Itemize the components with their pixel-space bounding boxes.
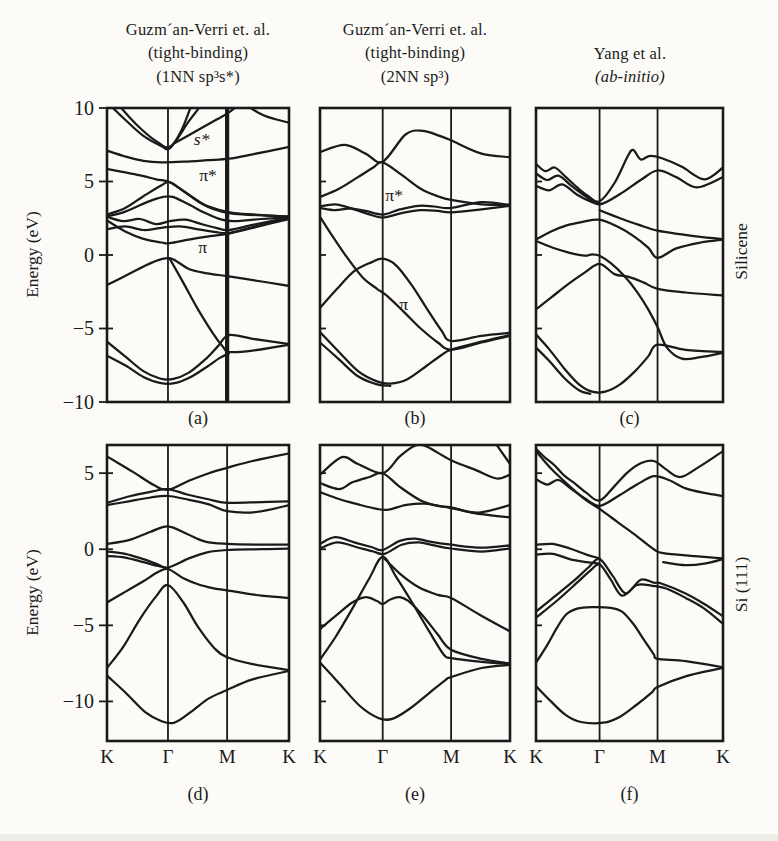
band-curve [320,445,510,479]
band-annotation-a: s* [194,129,210,149]
y-tick-label: −5 [73,614,94,636]
x-tick-label-k: K [716,746,730,767]
band-curve [107,258,289,286]
panel-caption-d: (d) [188,784,209,805]
band-curve [320,206,510,218]
y-tick-label: −10 [63,690,94,712]
band-curve [320,597,510,663]
band-curve [536,334,723,392]
panel-frame [320,108,510,402]
band-curve [663,559,723,565]
band-lines-f [536,449,723,723]
band-curve [320,130,510,162]
band-annotation-b: π* [385,185,403,205]
y-tick-label: −5 [73,317,94,339]
band-annotation-b: π [399,294,408,314]
band-curve [536,668,723,723]
panel-d: 50−5−10KΓMK(d) [63,445,296,805]
panel-e: KΓMK(e) [313,445,517,805]
band-curve [107,569,289,603]
band-curve [320,162,510,205]
band-annotation-a: π [198,237,207,257]
panel-caption-a: (a) [188,408,208,429]
panel-caption-f: (f) [621,784,639,805]
band-curve [600,210,723,239]
band-lines-e [320,445,510,720]
band-curve [536,241,723,359]
band-curve [107,453,289,490]
y-tick-label: 10 [74,97,94,119]
band-curve [107,549,289,568]
band-curve [536,544,600,559]
x-tick-label-k: K [313,746,327,767]
panel-caption-b: (b) [405,408,426,429]
band-lines-d [107,453,289,723]
band-curve [107,526,289,544]
band-curve [536,264,723,310]
panel-a: 1050−5−10(a)s*π*π [63,97,289,430]
panel-caption-c: (c) [620,408,640,429]
band-curve [107,147,289,162]
y-tick-label: 0 [84,244,94,266]
x-tick-label-k: K [529,746,543,767]
panel-b: (b)π*π [320,108,510,429]
band-lines-c [536,150,723,394]
y-tick-label: 0 [84,538,94,560]
band-curve [320,473,510,513]
y-tick-label: 5 [84,170,94,192]
scan-shadow-strip [0,834,778,841]
band-curve [536,607,723,667]
band-structure-figure: 1050−5−10(a)s*π*π(b)π*π(c)50−5−10KΓMK(d)… [0,0,778,841]
band-curve [242,102,289,123]
figure-page: Guzm´an-Verri et. al. (tight-binding) (1… [0,0,778,841]
band-annotation-a: π* [199,165,217,185]
band-curve [107,182,289,217]
panel-frame [320,445,510,741]
x-tick-label-γ: Γ [162,746,173,767]
band-curve [536,449,723,501]
y-tick-label: −10 [63,391,94,413]
x-tick-label-m: M [443,746,460,767]
panel-frame [107,445,289,741]
band-curve [107,671,289,723]
band-curve [536,564,723,624]
band-curve [170,259,289,352]
band-curve [320,663,510,720]
x-tick-label-γ: Γ [377,746,388,767]
band-curve [320,259,510,341]
panel-caption-e: (e) [405,784,425,805]
x-tick-label-m: M [219,746,236,767]
y-tick-label: 5 [84,462,94,484]
band-curve [536,150,723,202]
x-tick-label-k: K [282,746,296,767]
band-curve [383,557,510,632]
band-curve [536,184,600,203]
band-curve [320,557,510,664]
band-curve [107,585,289,670]
band-curve [107,496,289,513]
band-curve [536,559,723,616]
x-tick-label-m: M [649,746,666,767]
band-curve [497,445,510,464]
x-tick-label-γ: Γ [594,746,605,767]
panel-c: (c) [536,108,723,429]
band-curve [320,332,510,384]
band-curve [320,343,390,386]
panel-f: KΓMK(f) [529,445,730,805]
x-tick-label-k: K [503,746,517,767]
x-tick-label-k: K [100,746,114,767]
band-curve [320,217,510,350]
band-curve [536,451,723,558]
band-lines-b [320,130,510,385]
